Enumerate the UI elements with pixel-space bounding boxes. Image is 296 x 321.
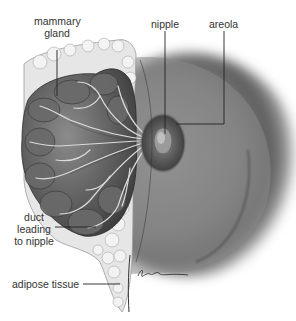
duct-label-line3: to nipple [12,235,56,247]
duct-label-line1: duct [12,211,56,223]
anatomy-illustration [0,0,296,321]
duct-label: duct leading to nipple [12,211,56,247]
mammary-gland-label: mammary gland [34,15,80,39]
mammary-gland-label-line1: mammary [34,15,80,27]
mammary-gland-label-line2: gland [34,27,80,39]
breast-anatomy-diagram: mammary gland nipple areola duct leading… [0,0,296,321]
nipple-shape [154,128,172,154]
duct-label-line2: leading [12,223,56,235]
areola-label: areola [209,18,238,30]
adipose-tissue-label: adipose tissue [12,278,79,290]
nipple-label: nipple [151,18,179,30]
